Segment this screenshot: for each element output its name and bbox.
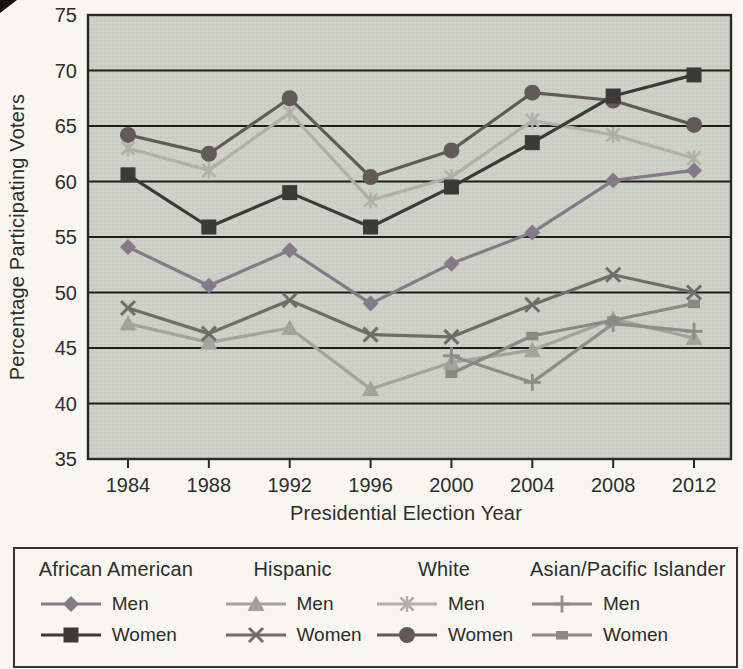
y-axis-title: Percentage Participating Voters xyxy=(6,94,28,380)
legend-entry-label: Men xyxy=(112,593,149,615)
legend-entry-label: Men xyxy=(603,593,640,615)
x-tick-label: 2012 xyxy=(672,474,717,496)
legend-group-title: White xyxy=(375,558,513,581)
dash-marker-icon xyxy=(530,626,594,644)
legend-group-hispanic: HispanicMenWomen xyxy=(217,558,368,650)
y-tick-label: 35 xyxy=(55,448,77,470)
legend-entry-asian-pacific-islander-women: Women xyxy=(530,619,726,650)
x-tick-label: 2008 xyxy=(591,474,636,496)
voter-line-chart: Percentage Participating Voters Presiden… xyxy=(0,0,743,540)
y-tick-labels: 354045505560657075 xyxy=(55,4,77,470)
y-tick-label: 50 xyxy=(55,282,77,304)
x-axis-title: Presidential Election Year xyxy=(290,502,522,524)
circle-marker-icon xyxy=(375,626,439,644)
x-marker-icon xyxy=(224,626,288,644)
x-tick-label: 1992 xyxy=(267,474,312,496)
legend-entry-white-men: Men xyxy=(375,588,513,619)
legend-entry-hispanic-women: Women xyxy=(224,619,362,650)
legend-entry-label: Men xyxy=(448,593,485,615)
x-tick-label: 1984 xyxy=(106,474,151,496)
x-tick-labels: 19841988199219962000200420082012 xyxy=(106,459,717,496)
legend-group-african-american: African AmericanMenWomen xyxy=(15,558,217,650)
diamond-marker-icon xyxy=(39,595,103,613)
legend-group-inner: African AmericanMenWomen xyxy=(39,558,193,650)
legend-entry-label: Women xyxy=(297,624,362,646)
legend-group-white: WhiteMenWomen xyxy=(368,558,519,650)
x-tick-label: 1996 xyxy=(348,474,393,496)
legend-group-inner: WhiteMenWomen xyxy=(375,558,513,650)
legend-group-title: Asian/Pacific Islander xyxy=(530,558,726,581)
legend-entry-label: Men xyxy=(297,593,334,615)
legend-entry-label: Women xyxy=(603,624,668,646)
legend-entry-hispanic-men: Men xyxy=(224,588,362,619)
legend-group-title: Hispanic xyxy=(224,558,362,581)
legend-entry-african-american-women: Women xyxy=(39,619,193,650)
y-tick-label: 40 xyxy=(55,393,77,415)
legend-entry-asian-pacific-islander-men: Men xyxy=(530,588,726,619)
legend-entry-white-women: Women xyxy=(375,619,513,650)
legend-group-title: African American xyxy=(39,558,193,581)
x-tick-label: 1988 xyxy=(187,474,232,496)
y-tick-label: 70 xyxy=(55,60,77,82)
legend-group-asian-pacific-islander: Asian/Pacific IslanderMenWomen xyxy=(520,558,736,650)
y-tick-label: 75 xyxy=(55,4,77,26)
square-marker-icon xyxy=(39,626,103,644)
y-tick-label: 45 xyxy=(55,337,77,359)
asterisk-marker-icon xyxy=(375,595,439,613)
legend-entry-african-american-men: Men xyxy=(39,588,193,619)
x-tick-label: 2004 xyxy=(510,474,555,496)
x-tick-label: 2000 xyxy=(429,474,474,496)
legend: African AmericanMenWomenHispanicMenWomen… xyxy=(13,547,738,668)
y-tick-label: 60 xyxy=(55,171,77,193)
triangle-marker-icon xyxy=(224,595,288,613)
voter-participation-figure: Percentage Participating Voters Presiden… xyxy=(0,0,743,669)
plus-marker-icon xyxy=(530,595,594,613)
y-tick-label: 65 xyxy=(55,115,77,137)
legend-entry-label: Women xyxy=(448,624,513,646)
legend-group-inner: Asian/Pacific IslanderMenWomen xyxy=(530,558,726,650)
legend-group-inner: HispanicMenWomen xyxy=(224,558,362,650)
y-tick-label: 55 xyxy=(55,226,77,248)
legend-entry-label: Women xyxy=(112,624,177,646)
plot-area: 3540455055606570751984198819921996200020… xyxy=(55,4,731,496)
